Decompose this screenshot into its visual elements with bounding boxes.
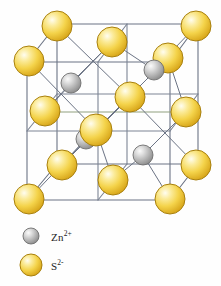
crystal-lattice-diagram [0,0,221,225]
legend-symbol-zinc: Zn [51,231,64,243]
legend-label-zinc: Zn2+ [51,229,72,243]
legend-charge-sulfide: 2- [57,258,63,267]
sulfide-ion [30,96,60,126]
sulfide-ion [98,165,128,195]
sulfide-ion-swatch-icon [19,253,43,277]
zinc-ion-swatch-icon [22,227,40,245]
sulfide-ion [80,114,112,146]
sulfide-ion [115,82,145,112]
sulfide-ion [181,11,211,41]
legend-item-sulfide: S2- [19,253,64,277]
sulfide-ion [171,97,201,127]
zinc-ion [133,145,153,165]
legend: Zn2+ S2- [0,222,221,286]
zinc-ion [61,73,81,93]
sulfide-ion-group-back [14,11,211,76]
figure-root: Zn2+ S2- [0,0,221,286]
sulfide-ion [97,27,127,57]
legend-charge-zinc: 2+ [64,229,72,238]
sulfide-ion [155,184,185,214]
sulfide-ion [47,150,77,180]
sulfide-ion [42,11,72,41]
sulfide-ion [14,184,44,214]
legend-label-sulfide: S2- [51,258,64,272]
zinc-ion [144,60,164,80]
legend-item-zinc: Zn2+ [22,227,72,245]
sulfide-ion [14,46,44,76]
sulfide-ion-group-front [14,82,211,214]
sulfide-ion [181,150,211,180]
